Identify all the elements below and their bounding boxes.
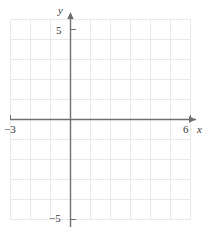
x-axis-label: x [197, 124, 202, 135]
y-axis-tick-label-min: −5 [49, 213, 61, 224]
coordinate-plane: 5 −5 −3 6 y x [0, 0, 209, 236]
axes [0, 0, 209, 236]
y-axis-label: y [58, 5, 63, 16]
x-axis-tick-label-max: 6 [183, 124, 189, 135]
y-axis-arrowhead [67, 12, 73, 19]
x-axis-tick-label-min: −3 [4, 124, 16, 135]
y-axis-tick-label-max: 5 [56, 25, 62, 36]
